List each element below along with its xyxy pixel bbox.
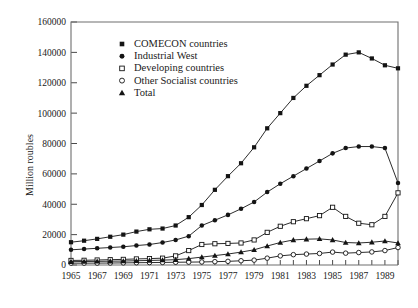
data-point-filled-square: [160, 226, 164, 230]
data-point-open-circle: [226, 259, 231, 264]
data-point-filled-square: [82, 239, 86, 243]
data-point-filled-circle: [82, 247, 87, 252]
data-point-filled-circle: [304, 166, 309, 171]
x-tick-label: 1967: [88, 271, 107, 281]
data-point-filled-circle: [120, 54, 125, 59]
data-point-open-square: [344, 214, 348, 218]
y-tick-label: 140000: [38, 48, 67, 58]
data-point-open-circle: [200, 260, 205, 265]
data-point-filled-square: [370, 56, 374, 60]
data-point-filled-square: [213, 188, 217, 192]
data-point-filled-circle: [213, 218, 218, 223]
data-point-filled-square: [265, 126, 269, 130]
data-point-filled-square: [344, 53, 348, 57]
data-point-filled-square: [278, 111, 282, 115]
x-tick-label: 1985: [323, 271, 342, 281]
data-point-open-circle: [356, 250, 361, 255]
data-point-filled-circle: [291, 174, 296, 179]
data-point-filled-square: [331, 62, 335, 66]
data-point-filled-square: [95, 237, 99, 241]
data-point-open-circle: [120, 78, 125, 83]
data-point-open-square: [239, 241, 243, 245]
data-point-open-circle: [252, 258, 257, 263]
data-point-open-circle: [304, 252, 309, 257]
data-point-filled-square: [252, 145, 256, 149]
legend-item-total: Total: [119, 87, 156, 98]
data-point-open-circle: [291, 252, 296, 257]
data-point-filled-square: [383, 63, 387, 67]
data-point-open-circle: [265, 256, 270, 261]
data-point-filled-circle: [278, 181, 283, 186]
legend-item-label: Industrial West: [134, 50, 197, 61]
y-tick-label: 80000: [42, 139, 66, 149]
data-point-open-square: [370, 223, 374, 227]
data-point-open-square: [317, 214, 321, 218]
line-chart: Million roubles 020000400006000080000100…: [0, 0, 418, 308]
chart-figure: Million roubles 020000400006000080000100…: [0, 0, 418, 308]
y-tick-label: 0: [61, 260, 66, 270]
x-tick-label: 1981: [271, 271, 290, 281]
data-point-filled-square: [174, 223, 178, 227]
x-tick-label: 1987: [349, 271, 368, 281]
data-point-filled-circle: [160, 240, 165, 245]
data-point-filled-circle: [383, 146, 388, 151]
data-point-filled-square: [239, 161, 243, 165]
x-tick-label: 1983: [297, 271, 316, 281]
data-point-open-square: [291, 220, 295, 224]
x-tick-label: 1979: [245, 271, 264, 281]
legend-item-label: COMECON countries: [134, 38, 228, 49]
series-markers: [69, 245, 401, 265]
data-point-filled-square: [121, 233, 125, 237]
data-point-filled-square: [357, 50, 361, 54]
x-tick-label: 1989: [375, 271, 394, 281]
legend-item-label: Other Socialist countries: [134, 75, 238, 86]
series-industrial-west: [69, 144, 401, 252]
data-point-open-circle: [239, 258, 244, 263]
data-point-open-square: [383, 214, 387, 218]
data-point-filled-circle: [186, 234, 191, 239]
legend-item-other-socialist-countries: Other Socialist countries: [120, 75, 238, 86]
y-tick-label: 100000: [38, 109, 67, 119]
data-point-filled-square: [317, 73, 321, 77]
data-point-filled-square: [291, 96, 295, 100]
y-tick-label: 160000: [38, 17, 67, 27]
legend-item-label: Total: [134, 87, 156, 98]
data-point-filled-circle: [370, 144, 375, 149]
data-point-filled-square: [304, 84, 308, 88]
series-line: [71, 193, 398, 261]
y-tick-label: 40000: [42, 200, 66, 210]
data-point-open-circle: [330, 250, 335, 255]
data-point-open-circle: [317, 251, 322, 256]
data-point-filled-circle: [317, 159, 322, 164]
data-point-filled-circle: [69, 248, 74, 253]
data-point-open-circle: [396, 245, 401, 250]
data-point-open-circle: [383, 248, 388, 253]
x-tick-label: 1975: [192, 271, 211, 281]
data-point-filled-square: [108, 235, 112, 239]
data-point-open-square: [213, 242, 217, 246]
data-point-open-square: [200, 242, 204, 246]
data-point-filled-circle: [396, 181, 401, 186]
y-tick-label: 120000: [38, 78, 67, 88]
data-point-open-square: [226, 241, 230, 245]
legend-item-developing-countries: Developing countries: [120, 62, 224, 73]
legend-item-label: Developing countries: [134, 62, 224, 73]
data-point-filled-circle: [239, 207, 244, 212]
series-line: [71, 147, 398, 250]
series-developing-countries: [69, 191, 400, 263]
x-tick-label: 1977: [218, 271, 237, 281]
plot-border: [71, 22, 398, 265]
data-point-filled-circle: [108, 245, 113, 250]
data-point-filled-square: [147, 227, 151, 231]
data-point-filled-square: [120, 42, 125, 47]
data-point-filled-circle: [173, 238, 178, 243]
chart-legend: COMECON countriesIndustrial WestDevelopi…: [119, 38, 238, 98]
series-markers: [69, 144, 401, 252]
series-other-socialist-countries: [69, 245, 401, 265]
y-axis-title-label: Million roubles: [24, 134, 35, 196]
data-point-filled-circle: [147, 242, 152, 247]
legend-item-industrial-west: Industrial West: [120, 50, 198, 61]
data-point-open-square: [304, 217, 308, 221]
axis-frame: [71, 22, 398, 265]
data-point-open-circle: [213, 259, 218, 264]
